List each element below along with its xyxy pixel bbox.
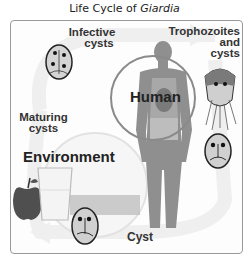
label-human: Human (130, 88, 181, 105)
label-line: cysts (62, 38, 122, 49)
label-environment: Environment (23, 148, 115, 165)
label-line: cysts (16, 123, 71, 134)
label-infective-cysts: Infective cysts (62, 27, 122, 49)
label-cyst: Cyst (127, 232, 153, 243)
label-trophozoites: Trophozoites and cysts (150, 26, 240, 59)
label-line: cysts (150, 48, 240, 59)
label-maturing-cysts: Maturing cysts (16, 112, 71, 134)
